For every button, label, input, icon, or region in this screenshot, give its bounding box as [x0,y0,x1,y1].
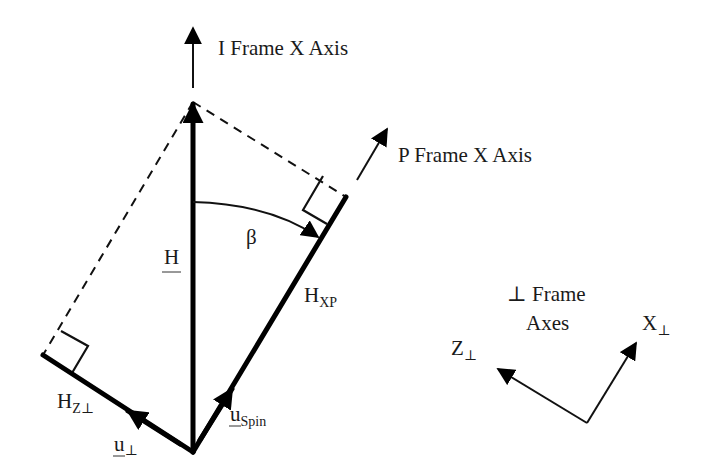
i-frame-x-axis-label: I Frame X Axis [218,36,348,60]
u-spin-label: uSpin [230,402,266,429]
h-zperp-label: HZ⊥ [57,389,94,416]
dashed-projection-right [193,102,346,197]
x-perp-label: X⊥ [642,311,670,338]
perp-frame-title-line1: ⊥ Frame [507,282,586,306]
dashed-projection-left [43,102,193,355]
h-label: H [164,245,179,269]
x-perp-axis-arrow [587,343,636,423]
h-xp-label: HXP [304,283,337,310]
u-perp-label: u⊥ [114,432,138,458]
p-frame-x-axis-label: P Frame X Axis [398,143,532,167]
beta-label: β [246,225,257,249]
u-spin-arrow [200,389,232,440]
u-perp-arrow [128,411,180,444]
frame-vector-diagram: I Frame X Axis P Frame X Axis β H HXP HZ… [0,0,710,476]
p-frame-x-axis-arrow [357,129,387,180]
right-angle-mark-p [303,176,327,224]
z-perp-label: Z⊥ [451,336,477,363]
perp-frame-title-line2: Axes [526,311,569,335]
z-perp-axis-arrow [498,369,587,423]
